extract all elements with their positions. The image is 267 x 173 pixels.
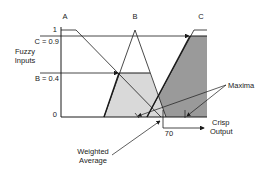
weighted-average-label-1: Weighted — [77, 147, 109, 156]
y-axis-label-2: Inputs — [15, 56, 36, 65]
crisp-value-label: 70 — [165, 129, 173, 138]
set-b-label: B — [132, 12, 137, 21]
weighted-average-label-2: Average — [79, 156, 107, 165]
fuzzy-diagram: A B C 1 C = 0.9 Fuzzy Inputs B = 0.4 0 M… — [0, 0, 267, 173]
set-c-label: C — [198, 12, 204, 21]
crisp-output-label-1: Crisp — [212, 118, 230, 127]
b-clipped-region — [104, 73, 166, 117]
weighted-average-arrow — [112, 121, 160, 155]
set-a-label: A — [62, 12, 67, 21]
tick-one-label: 1 — [53, 25, 57, 34]
level-c-label: C = 0.9 — [35, 37, 59, 46]
maxima-label: Maxima — [228, 81, 255, 90]
level-b-label: B = 0.4 — [35, 74, 59, 83]
tick-zero-label: 0 — [53, 110, 57, 119]
crisp-output-label-2: Output — [210, 127, 233, 136]
y-axis-label-1: Fuzzy — [15, 47, 35, 56]
